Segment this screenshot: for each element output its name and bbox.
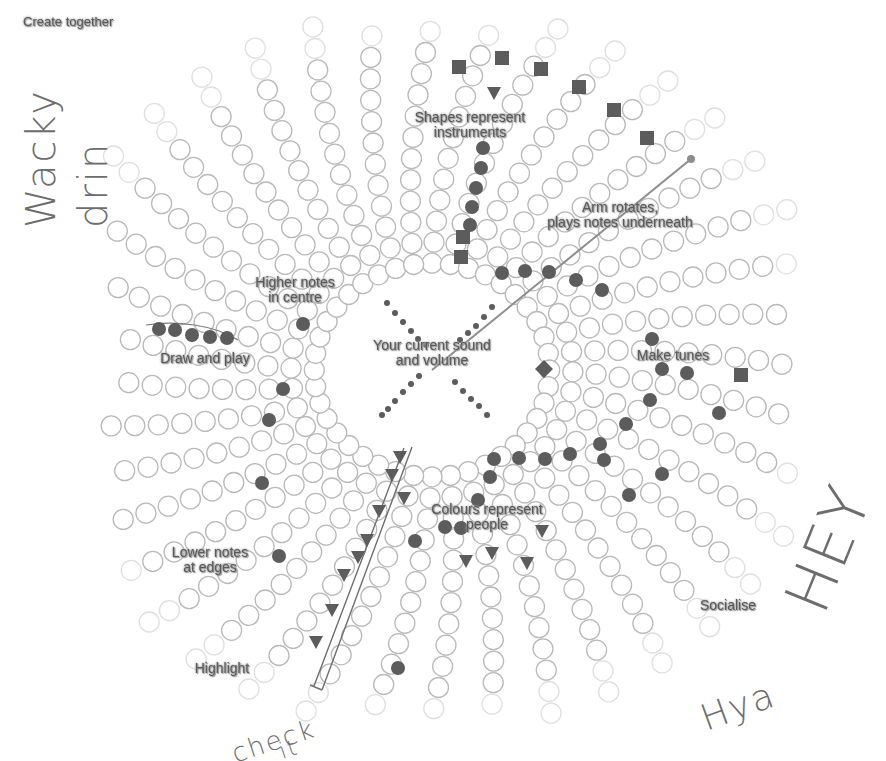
label-colours-represent-people: Colours representpeople: [431, 502, 542, 532]
handwriting-wacky: Wacky: [18, 89, 64, 228]
label-current-sound: Your current soundand volume: [373, 338, 491, 368]
label-draw-and-play: Draw and play: [160, 351, 250, 366]
label-arm-rotates: Arm rotates,plays notes underneath: [547, 200, 693, 230]
label-shapes-represent-instruments: Shapes representinstruments: [415, 110, 526, 140]
label-socialise: Socialise: [700, 598, 756, 613]
label-higher-notes: Higher notesin centre: [255, 275, 334, 305]
label-highlight: Highlight: [195, 661, 249, 676]
label-make-tunes: Make tunes: [637, 348, 709, 363]
handwriting-drin: drin: [70, 142, 116, 228]
diagram-canvas: Create together Shapes representinstrume…: [0, 0, 886, 761]
diagram-title: Create together: [23, 14, 113, 29]
label-lower-notes: Lower notesat edges: [172, 545, 248, 575]
